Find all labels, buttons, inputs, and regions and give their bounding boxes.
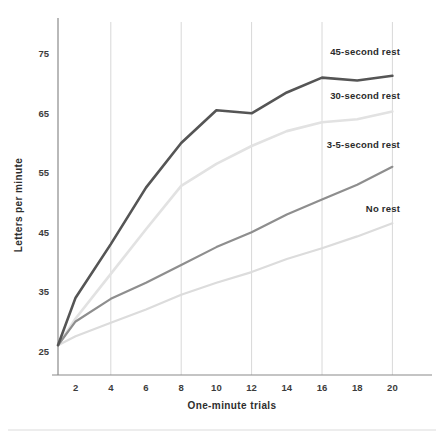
footer-divider: [8, 429, 436, 431]
chart-container: 253545556575 2468101214161820 45-second …: [0, 0, 444, 437]
x-tick-label: 6: [143, 382, 148, 393]
x-tick-label: 12: [246, 382, 257, 393]
series-line: [58, 223, 392, 345]
y-tick-label: 35: [38, 286, 49, 297]
x-tick-label: 16: [317, 382, 328, 393]
series-annotation-label: 30-second rest: [330, 90, 400, 101]
series-line: [58, 167, 392, 345]
series-line: [58, 76, 392, 345]
data-series: [58, 76, 392, 345]
series-annotation-label: 45-second rest: [330, 46, 400, 57]
grid-lines: [111, 22, 393, 375]
x-tick-label: 14: [282, 382, 293, 393]
y-tick-label: 25: [38, 346, 49, 357]
y-tick-label: 75: [38, 48, 49, 59]
y-tick-label: 45: [38, 227, 49, 238]
x-tick-label: 18: [352, 382, 363, 393]
axis-lines: [52, 18, 432, 375]
x-tick-label: 2: [73, 382, 78, 393]
series-annotation-label: No rest: [366, 203, 401, 214]
y-tick-label: 65: [38, 108, 49, 119]
x-axis-tick-labels: 2468101214161820: [73, 382, 398, 393]
y-axis-tick-labels: 253545556575: [38, 48, 49, 356]
y-tick-label: 55: [38, 167, 49, 178]
y-axis-title: Letters per minute: [13, 158, 24, 252]
x-tick-label: 10: [211, 382, 222, 393]
x-tick-label: 8: [179, 382, 184, 393]
x-tick-label: 4: [108, 382, 114, 393]
series-annotation-label: 3-5-second rest: [327, 139, 401, 150]
x-axis-title: One-minute trials: [187, 400, 276, 411]
line-chart: 253545556575 2468101214161820 45-second …: [0, 0, 444, 437]
series-annotations: 45-second rest30-second rest3-5-second r…: [327, 46, 401, 214]
x-tick-label: 20: [387, 382, 398, 393]
